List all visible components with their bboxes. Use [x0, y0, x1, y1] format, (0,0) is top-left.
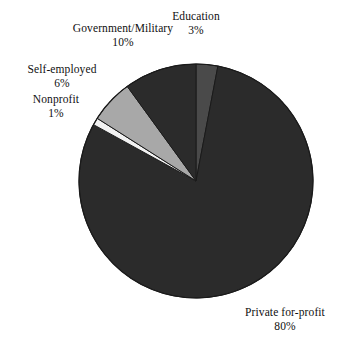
pie-chart-graphic: [0, 0, 350, 340]
pie-label-education-name: Education: [172, 9, 220, 23]
pie-label-self-employed-name: Self-employed: [27, 62, 96, 76]
pie-label-nonprofit-name: Nonprofit: [33, 92, 79, 106]
pie-label-education: Education 3%: [172, 9, 220, 37]
pie-label-nonprofit: Nonprofit 1%: [33, 92, 79, 120]
pie-label-government-military-name: Government/Military: [73, 21, 173, 35]
pie-label-education-percent: 3%: [172, 23, 220, 37]
pie-chart-page: Education 3% Government/Military 10% Sel…: [0, 0, 350, 340]
pie-slices: [79, 64, 313, 298]
pie-label-private-for-profit: Private for-profit 80%: [245, 305, 325, 333]
pie-label-self-employed: Self-employed 6%: [27, 62, 96, 90]
pie-label-private-for-profit-name: Private for-profit: [245, 305, 325, 319]
pie-label-self-employed-percent: 6%: [27, 76, 96, 90]
pie-label-government-military: Government/Military 10%: [73, 21, 173, 49]
pie-label-government-military-percent: 10%: [73, 35, 173, 49]
pie-label-private-for-profit-percent: 80%: [245, 319, 325, 333]
pie-label-nonprofit-percent: 1%: [33, 106, 79, 120]
